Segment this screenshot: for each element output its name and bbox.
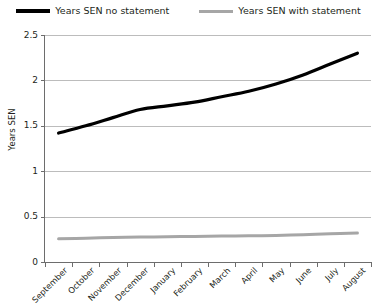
chart-container: Years SEN no statement Years SEN with st… (0, 0, 377, 303)
series-layer (0, 0, 377, 303)
series-line-no-statement (59, 53, 358, 133)
series-line-with-statement (59, 233, 358, 239)
